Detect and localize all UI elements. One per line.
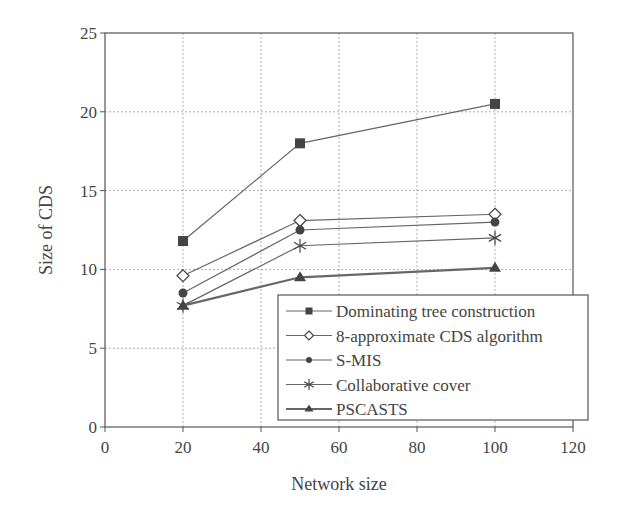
y-tick-label: 15 <box>80 182 97 201</box>
y-tick-label: 10 <box>80 260 97 279</box>
x-tick-label: 60 <box>331 438 348 457</box>
x-tick-label: 80 <box>409 438 426 457</box>
y-tick-label: 5 <box>89 339 98 358</box>
x-tick-label: 40 <box>253 438 270 457</box>
y-tick-label: 20 <box>80 103 97 122</box>
x-tick-label: 120 <box>560 438 586 457</box>
x-axis-label: Network size <box>291 474 386 494</box>
legend-label: PSCASTS <box>336 400 408 419</box>
x-tick-label: 100 <box>482 438 508 457</box>
legend-label: Dominating tree construction <box>336 302 536 321</box>
x-axis-ticks: 020406080100120 <box>101 427 586 457</box>
y-axis-label: Size of CDS <box>36 185 56 275</box>
legend: Dominating tree construction8-approximat… <box>278 295 588 420</box>
y-tick-label: 25 <box>80 24 97 43</box>
y-tick-label: 0 <box>89 418 98 437</box>
line-chart: 020406080100120 0510152025 Network size … <box>0 0 632 523</box>
legend-label: Collaborative cover <box>336 376 471 395</box>
y-axis-ticks: 0510152025 <box>80 24 105 437</box>
x-tick-label: 20 <box>175 438 192 457</box>
legend-label: 8-approximate CDS algorithm <box>336 327 543 346</box>
x-tick-label: 0 <box>101 438 110 457</box>
legend-label: S-MIS <box>336 351 381 370</box>
